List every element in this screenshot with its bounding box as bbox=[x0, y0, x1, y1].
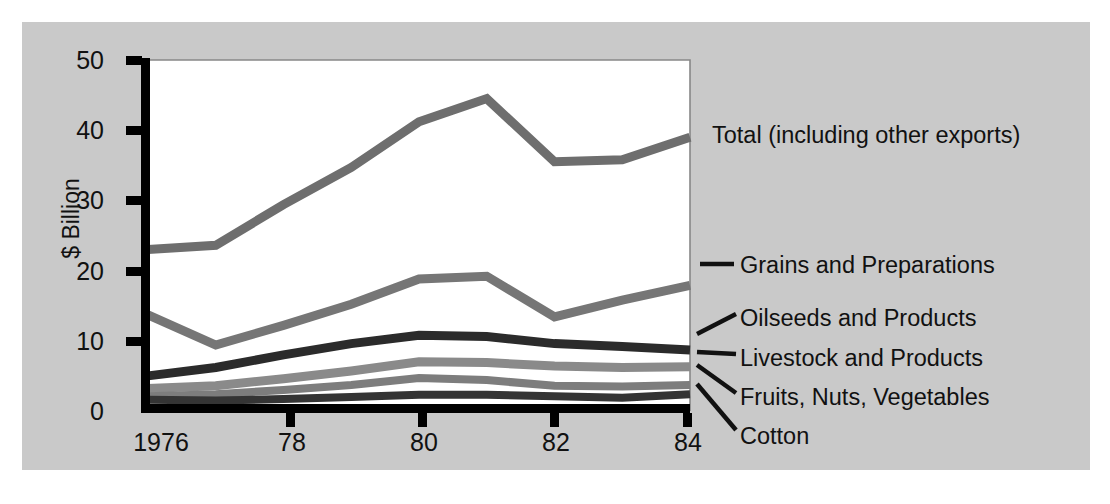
x-axis-line bbox=[141, 404, 690, 413]
x-axis-tick-marks bbox=[286, 413, 692, 427]
leader-line-livestock bbox=[697, 352, 736, 354]
y-axis-line bbox=[141, 58, 150, 413]
chart-plot-svg bbox=[0, 0, 1110, 504]
annotation-leader-lines bbox=[697, 264, 736, 430]
y-axis-tick-marks bbox=[126, 56, 142, 346]
leader-line-oilseeds bbox=[697, 314, 736, 334]
chart-figure: $ Billion 0 10 20 30 40 50 1976 78 80 82… bbox=[0, 0, 1110, 504]
